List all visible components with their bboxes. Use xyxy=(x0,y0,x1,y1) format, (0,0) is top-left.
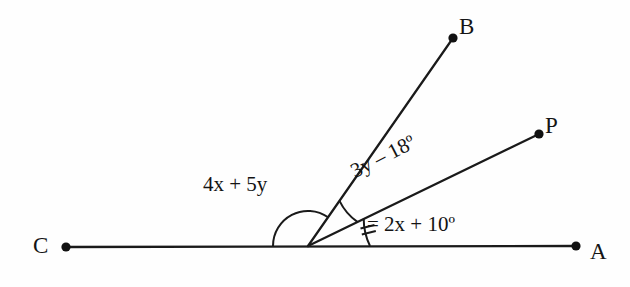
point-dot-C xyxy=(61,242,70,251)
angle-label-POA: = 2x + 10º xyxy=(367,214,455,235)
point-dot-P xyxy=(534,129,543,138)
point-dot-B xyxy=(448,33,457,42)
point-dot-A xyxy=(571,241,580,250)
point-label-C: C xyxy=(33,234,48,257)
diagram-canvas: C A B P 4x + 5y 3y – 18º = 2x + 10º xyxy=(0,0,630,287)
line-CA xyxy=(66,246,576,247)
point-label-B: B xyxy=(459,15,474,38)
angle-diagram-svg xyxy=(0,0,630,287)
arc-angle-BOP xyxy=(340,201,358,222)
point-label-A: A xyxy=(590,240,607,263)
angle-label-COB: 4x + 5y xyxy=(203,174,267,195)
point-label-P: P xyxy=(545,114,558,137)
